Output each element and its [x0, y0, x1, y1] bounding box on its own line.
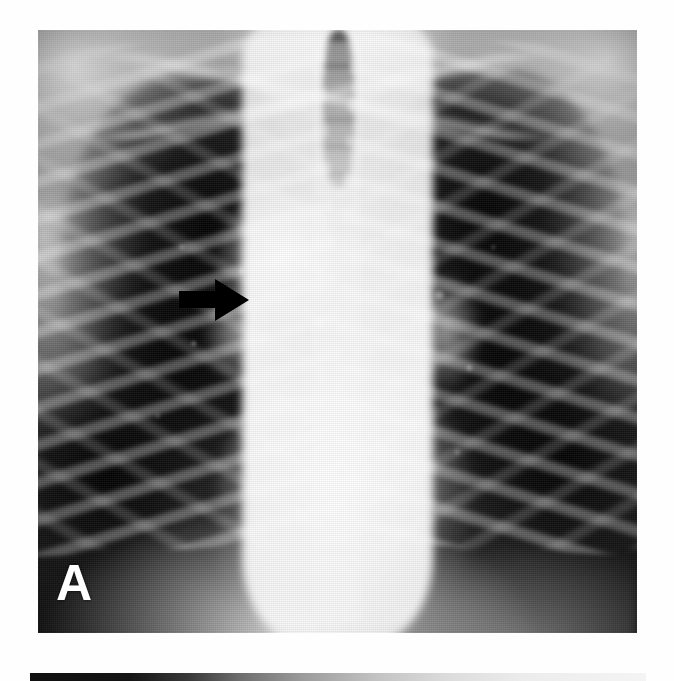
page-margin-left	[0, 0, 38, 681]
arrow-right-icon	[179, 277, 251, 323]
panel-a-radiograph[interactable]	[38, 30, 637, 633]
panel-b-top-sliver[interactable]	[30, 673, 646, 681]
figure-page: A	[0, 0, 674, 681]
page-margin-right	[637, 0, 674, 681]
parenchymal-opacities	[38, 30, 637, 633]
mediastinal-widening-arrow-icon	[179, 277, 251, 323]
panel-label-a: A	[56, 558, 92, 608]
page-margin-top	[0, 0, 674, 30]
page-margin-bottom	[0, 633, 674, 673]
